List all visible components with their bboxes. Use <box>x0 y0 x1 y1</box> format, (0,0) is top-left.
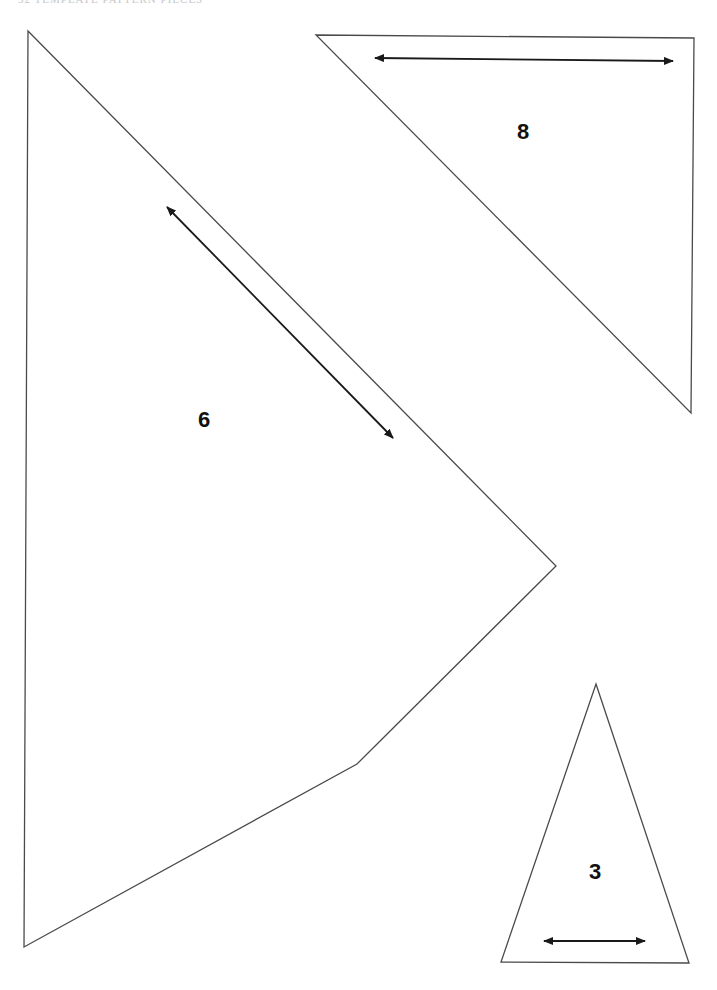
piece-3-label: 3 <box>589 861 601 883</box>
pattern-piece-8 <box>316 35 694 413</box>
piece-8-outline <box>316 35 694 413</box>
pattern-sheet <box>0 0 717 990</box>
piece-8-label: 8 <box>517 121 529 143</box>
pattern-piece-3 <box>501 684 689 963</box>
piece-6-label: 6 <box>198 409 210 431</box>
piece-3-outline <box>501 684 689 963</box>
